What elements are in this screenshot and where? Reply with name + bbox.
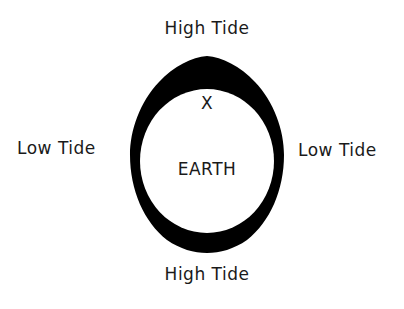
earth-label: EARTH xyxy=(0,161,404,178)
low-tide-left-label: Low Tide xyxy=(17,140,96,157)
high-tide-bottom-label: High Tide xyxy=(0,266,404,283)
low-tide-right-label: Low Tide xyxy=(298,142,377,159)
high-tide-top-label: High Tide xyxy=(0,20,404,37)
x-marker-label: X xyxy=(0,95,404,112)
tide-diagram: High Tide X Low Tide Low Tide EARTH High… xyxy=(0,0,404,309)
